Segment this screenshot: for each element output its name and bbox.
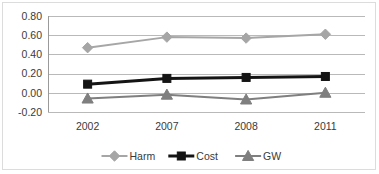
data-point-marker-diamond [109,151,119,161]
y-tick-label: 0.40 [22,48,43,60]
legend-label: Cost [196,150,218,162]
x-tick-label: 2008 [234,120,258,132]
series-gw [82,87,331,104]
series-lines [82,29,331,104]
legend-item-gw[interactable]: GW [235,150,281,162]
legend-label: GW [263,150,281,162]
line-chart: 0.800.600.400.200.00-0.20 20022007200820… [0,0,379,174]
y-tick-label: 0.20 [22,67,43,79]
data-point-marker-square [242,73,250,81]
data-point-marker-diamond [241,33,251,43]
data-point-marker-square [321,72,329,80]
data-point-marker-diamond [82,42,92,52]
y-tick-label: 0.00 [22,87,43,99]
x-tick-labels: 2002200720082011 [76,120,337,132]
y-tick-label: -0.20 [18,106,42,118]
data-point-marker-square [177,152,185,160]
data-point-marker-square [163,74,171,82]
legend-item-cost[interactable]: Cost [168,150,218,162]
series-line [88,34,326,47]
data-point-marker-diamond [320,29,330,39]
legend-item-harm[interactable]: Harm [102,150,156,162]
y-tick-label: 0.60 [22,29,43,41]
series-line [88,76,326,84]
x-tick-label: 2011 [314,120,337,132]
series-harm [82,29,330,53]
x-tick-label: 2002 [76,120,100,132]
y-tick-label: 0.80 [22,10,43,22]
legend-label: Harm [130,150,156,162]
chart-plot-area: 0.800.600.400.200.00-0.20 20022007200820… [0,0,379,174]
x-tick-label: 2007 [155,120,179,132]
data-point-marker-diamond [162,32,172,42]
data-point-marker-square [84,80,92,88]
y-tick-labels: 0.800.600.400.200.00-0.20 [18,10,42,118]
chart-legend: HarmCostGW [102,150,282,162]
